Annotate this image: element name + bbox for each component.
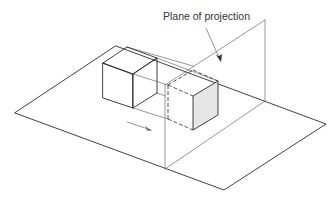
cube-object — [103, 47, 157, 108]
projection-diagram: Plane of projection — [0, 0, 335, 202]
ground-plane — [15, 46, 326, 190]
projected-shaded-face — [193, 81, 218, 130]
direction-arrow — [127, 122, 152, 131]
plane-of-projection-label: Plane of projection — [163, 10, 250, 22]
projected-cube — [168, 70, 218, 130]
